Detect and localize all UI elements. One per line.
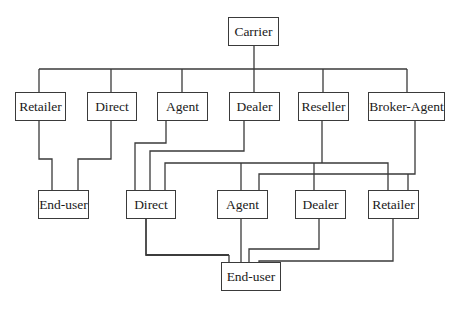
node-tier2-retailer: Retailer [368,190,419,219]
node-tier2-direct: Direct [126,190,176,219]
node-reseller: Reseller [298,92,349,121]
node-tier2-dealer: Dealer [295,190,346,219]
node-agent: Agent [157,92,208,121]
node-broker-agent: Broker-Agent [368,92,445,121]
node-carrier: Carrier [228,17,279,46]
node-dealer: Dealer [229,92,280,121]
node-retailer: Retailer [15,92,66,121]
node-end-user-bottom: End-user [221,262,281,291]
node-direct: Direct [87,92,137,121]
node-tier2-agent: Agent [217,190,268,219]
node-end-user-left: End-user [38,190,89,219]
